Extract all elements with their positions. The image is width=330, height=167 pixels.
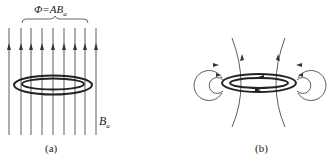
flux-label: Φ=ABa [34,3,67,18]
caption-b: (b) [255,142,268,155]
caption-a: (a) [45,142,58,155]
panel-a: Φ=ABa [7,3,110,155]
outer-field-lines [232,38,285,127]
flux-brace [22,16,88,23]
right-loop-arrows [296,63,303,77]
outer-arrows [240,54,280,61]
left-loop-arrows [213,63,221,77]
diagram-canvas: Φ=ABa [0,0,330,167]
field-label: Ba [99,114,110,130]
panel-b: (b) [194,38,326,155]
